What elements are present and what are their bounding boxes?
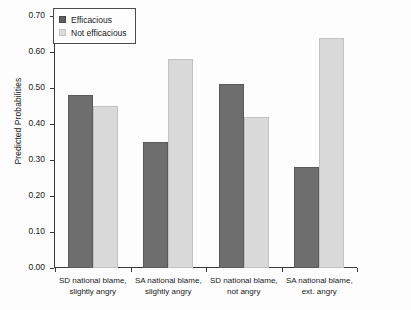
legend-label: Efficacious bbox=[71, 15, 112, 25]
bars-layer bbox=[55, 16, 357, 268]
x-axis-category-label: SD national blame,slightly angry bbox=[55, 276, 131, 306]
legend-swatch-icon bbox=[59, 16, 66, 23]
legend: Efficacious Not efficacious bbox=[53, 8, 136, 44]
x-axis-tick-mark bbox=[131, 268, 132, 272]
bar bbox=[319, 38, 344, 268]
y-axis-tick-label: 0.30 bbox=[28, 154, 45, 164]
bar bbox=[168, 59, 193, 268]
y-axis-tick-label: 0.40 bbox=[28, 118, 45, 128]
x-axis-tick-mark bbox=[206, 268, 207, 272]
y-axis-tick-mark bbox=[50, 268, 54, 269]
y-axis-tick-mark bbox=[50, 88, 54, 89]
x-axis-category-label: SA national blame,ext. angry bbox=[282, 276, 358, 306]
legend-item-not-efficacious: Not efficacious bbox=[59, 26, 127, 39]
y-axis-tick-mark bbox=[50, 52, 54, 53]
y-axis-tick-label: 0.70 bbox=[28, 10, 45, 20]
x-axis-tick-mark bbox=[282, 268, 283, 272]
x-axis-category-label: SD national blame,not angry bbox=[206, 276, 282, 306]
bar bbox=[143, 142, 168, 268]
y-axis-tick-label: 0.00 bbox=[28, 262, 45, 272]
bar-chart: Predicted Probabilities 0.000.100.200.30… bbox=[0, 0, 411, 310]
y-axis-tick-label: 0.50 bbox=[28, 82, 45, 92]
legend-item-efficacious: Efficacious bbox=[59, 13, 127, 26]
bar bbox=[93, 106, 118, 268]
x-axis-tick-mark bbox=[55, 268, 56, 272]
y-axis-tick-mark bbox=[50, 232, 54, 233]
legend-label: Not efficacious bbox=[71, 28, 127, 38]
x-axis-category-label: SA national blame,slightly angry bbox=[131, 276, 207, 306]
x-axis-tick-mark bbox=[357, 268, 358, 272]
bar bbox=[219, 84, 244, 268]
y-axis-tick-label: 0.10 bbox=[28, 226, 45, 236]
y-axis-tick-label: 0.60 bbox=[28, 46, 45, 56]
y-axis-tick-label: 0.20 bbox=[28, 190, 45, 200]
y-axis-title: Predicted Probabilities bbox=[13, 41, 23, 201]
legend-swatch-icon bbox=[59, 29, 66, 36]
y-axis-tick-mark bbox=[50, 124, 54, 125]
x-axis-labels: SD national blame,slightly angrySA natio… bbox=[55, 276, 357, 306]
bar bbox=[68, 95, 93, 268]
y-axis-tick-mark bbox=[50, 160, 54, 161]
bar bbox=[244, 117, 269, 268]
y-axis-tick-mark bbox=[50, 196, 54, 197]
bar bbox=[294, 167, 319, 268]
